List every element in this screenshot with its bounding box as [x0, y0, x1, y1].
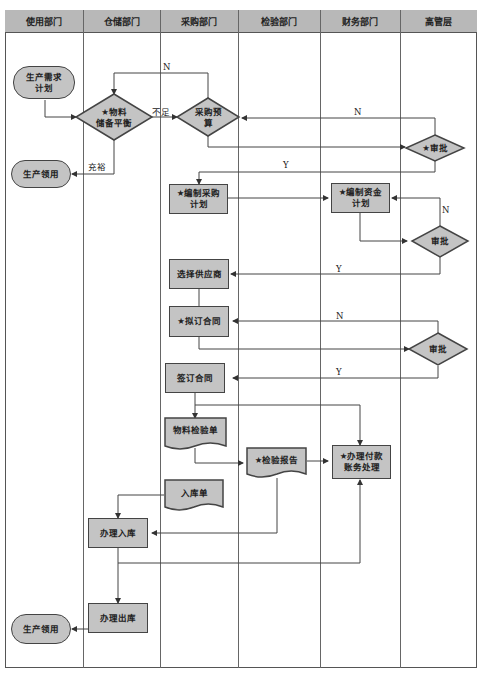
edge-label-y: Y: [336, 264, 342, 274]
edge-label-n: N: [336, 311, 343, 321]
store-in-box: 办理入库: [88, 518, 148, 548]
purchase-plan-box: ★编制采购 计划: [169, 184, 228, 214]
payment-box: ★办理付款 账务处理: [332, 445, 391, 479]
production-use-terminal-2: 生产领用: [11, 614, 71, 644]
edge-label-n: N: [442, 205, 449, 215]
purchase-budget-decision: 采购预 算: [184, 107, 232, 129]
production-use-terminal-1: 生产领用: [11, 160, 71, 188]
demand-plan-terminal: 生产需求 计划: [13, 66, 75, 99]
edge-label-n: N: [163, 62, 170, 72]
exec-approval-2-decision: 审批: [416, 343, 460, 355]
edge-label-y: Y: [283, 160, 289, 170]
warehouse-receipt-document: 入库单: [165, 484, 223, 502]
edge-label-y: Y: [336, 367, 342, 377]
fund-plan-box: ★编制资金 计划: [331, 183, 390, 213]
draft-contract-box: ★拟订合同: [169, 306, 229, 337]
connectors-layer: [0, 0, 490, 675]
sign-contract-box: 签订合同: [165, 363, 225, 393]
edge-label-insufficient: 不足: [152, 105, 170, 117]
stock-balance-decision: ★物料 储备平衡: [86, 108, 142, 128]
inspection-sheet-document: 物料检验单: [165, 421, 226, 439]
edge-label-n: N: [354, 107, 361, 117]
edge-label-sufficient: 充裕: [88, 160, 106, 172]
select-supplier-box: 选择供应商: [169, 259, 229, 289]
exec-approval-1-decision: ★审批: [410, 142, 460, 154]
store-out-box: 办理出库: [88, 603, 148, 633]
inspection-report-document: ★检验报告: [247, 451, 306, 469]
finance-approval-decision: 审批: [418, 235, 462, 247]
